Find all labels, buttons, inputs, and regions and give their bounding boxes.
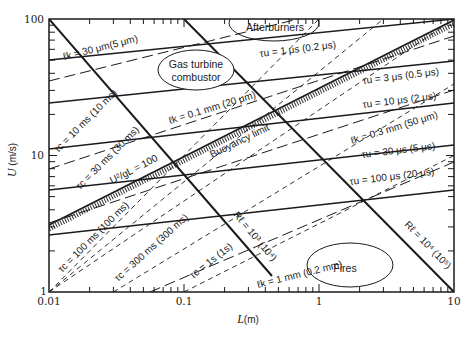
gas-turbine-region [158,50,234,90]
y-tick-100: 100 [24,13,44,25]
y-axis-title: U (m/s) [5,143,19,177]
re2-label: Rℓ = 10⁴ (10⁵) [403,219,454,271]
regime-diagram-chart: 100 10 1 0.01 0.1 1 10 L(m) U (m/s) [0,0,476,341]
tc300-label: τc = 300 ms (300 ms) [112,211,190,283]
afterburners-label: Afterburners [246,21,304,33]
tu100-label: τu = 100 μs (20 μs) [349,166,435,187]
x-tick-0.1: 0.1 [176,295,193,307]
tu30-label: τu = 30 μs (5 μs) [361,140,436,160]
gas-turbine-label-2: combustor [171,71,221,83]
y-tick-10: 10 [31,149,44,161]
tc1s-label: τc = 1s (1s) [187,241,234,281]
lk01-label: ℓk = 0.1 mm (20 μm) [167,89,257,126]
x-axis-title: L(m) [236,312,259,326]
gas-turbine-label-1: Gas turbine [169,58,223,70]
tu10-label: τu = 10 μs (2 μs) [362,90,437,110]
tc100-label: τc = 100 ms (100 ms) [56,199,131,274]
tu1-label: τu = 1 μs (0.2 μs) [259,39,337,59]
x-tick-1: 1 [316,295,323,307]
line-labels: ℓk = 30 μm(5 μm) τc = 10 ms (10 ms) τc =… [52,33,454,290]
x-tick-0.01: 0.01 [37,295,60,307]
x-tick-10: 10 [447,295,460,307]
